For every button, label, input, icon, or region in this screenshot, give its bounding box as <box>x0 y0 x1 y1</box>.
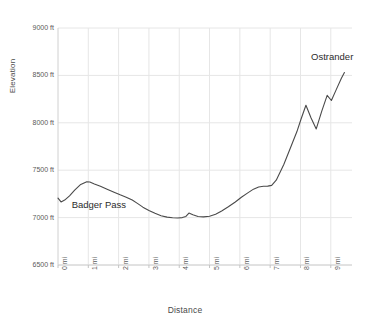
y-axis-tick-label: 6500 ft <box>22 261 54 268</box>
y-axis-tick-label: 9000 ft <box>22 24 54 31</box>
x-axis-title: Distance <box>0 305 370 315</box>
x-axis-tick-label: 6 mi <box>243 257 250 270</box>
annotation-label: Ostrander <box>311 51 353 62</box>
x-axis-tick-label: 8 mi <box>303 257 310 270</box>
x-axis-tick-label: 0 mi <box>61 257 68 270</box>
x-axis-tick-label: 2 mi <box>122 257 129 270</box>
x-axis-tick-label: 5 mi <box>213 257 220 270</box>
x-axis-tick-label: 1 mi <box>91 257 98 270</box>
y-axis-tick-label: 8500 ft <box>22 71 54 78</box>
x-axis-tick-label: 9 mi <box>334 257 341 270</box>
annotation-label: Badger Pass <box>72 199 126 210</box>
y-axis-tick-label: 7000 ft <box>22 214 54 221</box>
y-axis-tick-label: 8000 ft <box>22 119 54 126</box>
elevation-line-series <box>58 73 344 219</box>
elevation-profile-chart: Elevation 6500 ft7000 ft7500 ft8000 ft85… <box>0 0 370 326</box>
y-axis-tick-label: 7500 ft <box>22 166 54 173</box>
axis-frame <box>58 28 352 268</box>
x-axis-tick-label: 3 mi <box>152 257 159 270</box>
x-axis-tick-label: 4 mi <box>182 257 189 270</box>
x-axis-tick-label: 7 mi <box>273 257 280 270</box>
y-axis-title: Elevation <box>8 36 17 116</box>
gridlines <box>58 28 352 265</box>
plot-area <box>0 0 370 326</box>
